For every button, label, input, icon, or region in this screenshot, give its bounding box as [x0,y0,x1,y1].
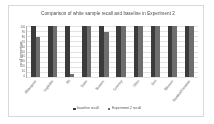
legend-item-0: baseline recall [73,107,99,111]
bar-group [147,26,164,77]
bar-1-0 [36,37,41,77]
x-axis-tick-slot: Standard Deviation [181,79,198,109]
chart-title: Comparison of white sample recall and ba… [27,11,189,17]
y-axis-tick-labels: 1009080706050403020100 [16,26,25,78]
y-axis-tick-8: 20 [22,65,25,68]
x-axis-tick-2: PII [67,80,72,85]
legend-swatch-icon [73,108,76,111]
y-axis-tick-1: 90 [22,31,25,34]
plot-area [26,26,198,78]
x-axis-tick-3: Dates [81,80,89,88]
x-axis-tick-7: Unit [152,80,158,86]
bar-0-2 [65,26,70,77]
legend-item-1: Experiment 2 recall [108,107,141,111]
legend-label-1: Experiment 2 recall [112,107,141,111]
y-axis-tick-2: 80 [22,36,25,39]
bar-1-7 [155,26,160,77]
y-axis-tick-3: 70 [22,41,25,44]
legend-label-0: baseline recall [77,107,99,111]
bar-1-8 [172,26,177,77]
x-axis-tick-slot: Currency [112,79,129,109]
bar-group [44,26,61,77]
bar-group [164,26,181,77]
bar-1-6 [138,26,143,77]
bar-group [78,26,95,77]
x-axis-tick-0: Whitespace [25,80,38,95]
legend-swatch-icon [108,108,111,111]
y-axis-tick-5: 50 [22,51,25,54]
gridline [27,77,198,78]
x-axis-tick-5: Currency [113,80,123,92]
bar-group [27,26,44,77]
y-axis-tick-10: 0 [23,75,25,78]
x-axis-tick-6: Other [133,80,140,88]
bar-1-1 [53,26,58,77]
x-axis-tick-slot: Numeric [95,79,112,109]
x-axis-tick-labels: WhitespaceCapitalizePIIDatesNumericCurre… [26,79,198,109]
bar-1-4 [104,32,109,77]
x-axis-tick-1: Capitalize [43,80,54,93]
bar-1-3 [87,26,92,77]
bar-1-2 [70,74,75,77]
x-axis-tick-slot: Dates [78,79,95,109]
bar-1-5 [121,26,126,77]
x-axis-tick-slot: PII [60,79,77,109]
chart-figure-frame: Comparison of white sample recall and ba… [8,5,204,117]
bar-group [130,26,147,77]
y-axis-tick-6: 40 [22,55,25,58]
bar-group [112,26,129,77]
x-axis-tick-slot: Whitespace [26,79,43,109]
chart-legend: baseline recallExperiment 2 recall [9,107,205,111]
x-axis-tick-slot: Capitalize [43,79,60,109]
y-axis-tick-0: 100 [20,26,25,29]
x-axis-tick-slot: Other [129,79,146,109]
bar-groups [27,26,198,77]
x-axis-tick-4: Numeric [96,80,106,91]
bar-group [95,26,112,77]
y-axis-tick-7: 30 [22,60,25,63]
bar-group [61,26,78,77]
x-axis-tick-slot: Unit [146,79,163,109]
y-axis-tick-4: 60 [22,46,25,49]
bar-group [181,26,198,77]
x-axis-tick-8: Measure [165,80,175,92]
y-axis-tick-9: 10 [22,70,25,73]
bar-1-9 [189,26,194,77]
